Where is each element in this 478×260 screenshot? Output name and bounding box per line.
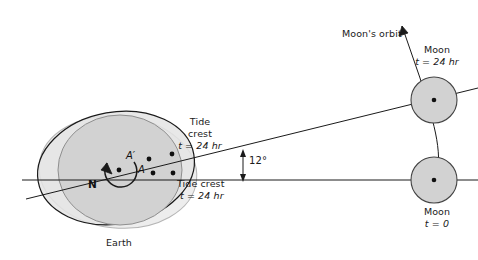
tide-crest-upper-line1: Tide (170, 116, 230, 128)
moon-t0-line2: t = 0 (408, 218, 466, 230)
tidal-bulge-diagram: N A A′ Tide crest t = 24 hr Tide crest t… (0, 0, 478, 260)
moon-t24-line1: Moon (408, 44, 466, 56)
point-A-prime-label: A′ (126, 150, 135, 161)
tide-crest-lower-line1: Tide crest (177, 178, 224, 190)
angle-arrowhead-bottom (240, 174, 246, 182)
north-pole-label: N (88, 178, 97, 190)
point-A-dot (151, 171, 156, 176)
angle-arrowhead-top (240, 149, 246, 157)
tide-crest-lower-dot (171, 171, 176, 176)
moon-t0-line1: Moon (408, 206, 466, 218)
tide-crest-upper-line2: crest (170, 128, 230, 140)
tide-crest-lower-line2: t = 24 hr (180, 190, 224, 202)
moon-t24-line2: t = 24 hr (408, 56, 466, 68)
tide-crest-upper-line3: t = 24 hr (170, 140, 230, 152)
moon-t24-center-dot (432, 98, 437, 103)
tide-crest-upper-dot (170, 152, 175, 157)
diagram-canvas (0, 0, 478, 260)
point-A-prime-dot (147, 157, 152, 162)
point-A-label: A (138, 164, 145, 175)
earth-label: Earth (90, 237, 148, 249)
moons-orbit-label: Moon's orbit (342, 28, 402, 40)
tidal-lag-angle-label: 12° (249, 155, 267, 167)
earth-center-dot (117, 168, 122, 173)
moon-t0-center-dot (432, 178, 437, 183)
